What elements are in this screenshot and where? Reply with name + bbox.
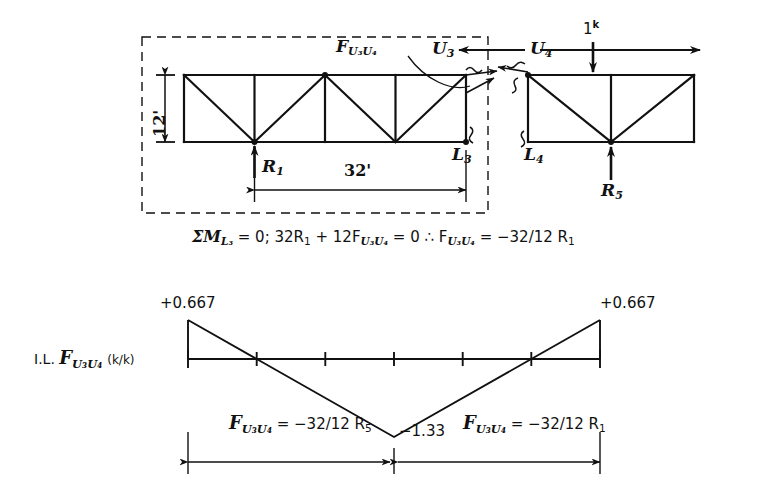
il-right-formula: FU₃U₄ = −32/12 R1 bbox=[463, 414, 606, 435]
reaction-label-r1: R1 bbox=[262, 158, 284, 177]
il-peak-left-label: +0.667 bbox=[160, 296, 216, 311]
il-bottom-dimension bbox=[188, 432, 600, 474]
il-left-formula: FU₃U₄ = −32/12 R5 bbox=[229, 414, 372, 435]
il-title: I.L. FU₃U₄(k/k) bbox=[34, 349, 135, 370]
dashed-freebody-box bbox=[142, 37, 488, 213]
joint-label-u3: U3 bbox=[432, 40, 454, 59]
il-min-label: −1.33 bbox=[399, 424, 445, 439]
right-truss bbox=[528, 75, 694, 142]
joint-label-l4: L4 bbox=[524, 146, 544, 165]
joint-label-l3: L3 bbox=[452, 146, 472, 165]
unit-load-label: 1k bbox=[583, 20, 599, 37]
il-peak-right-label: +0.667 bbox=[600, 296, 656, 311]
moment-equation: ΣML₃ = 0; 32R1 + 12FU₃U₄ = 0 ∴ FU₃U₄ = −… bbox=[192, 229, 575, 247]
member-force-arrows-left bbox=[408, 56, 497, 143]
joint-label-u4: U4 bbox=[530, 40, 552, 59]
figure-root: 12' 32' FU₃U₄ U3 U4 L3 L4 R1 R5 1k ΣML₃ … bbox=[0, 0, 760, 487]
left-truss bbox=[184, 75, 466, 142]
member-force-arrows-right bbox=[498, 62, 528, 147]
height-dimension-label: 12' bbox=[152, 110, 168, 137]
span-dimension-label: 32' bbox=[344, 163, 371, 179]
member-force-label: FU₃U₄ bbox=[336, 38, 377, 57]
reaction-label-r5: R5 bbox=[601, 182, 623, 201]
